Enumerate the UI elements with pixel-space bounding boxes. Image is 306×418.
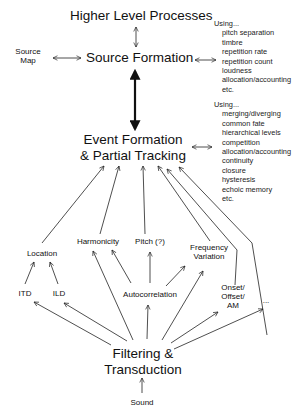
node-source-map: Source Map bbox=[12, 47, 44, 65]
node-filtering-transduction: Filtering & Transduction bbox=[98, 346, 188, 377]
arrow-filter-freq bbox=[162, 271, 203, 340]
filtering-line1: Filtering & bbox=[98, 346, 188, 362]
source-cue-item: allocation/accounting bbox=[222, 75, 291, 84]
node-location: Location bbox=[20, 249, 64, 258]
event-cue-item: closure bbox=[222, 166, 291, 175]
node-pitch: Pitch (?) bbox=[130, 237, 170, 246]
event-cue-item: hierarchical levels bbox=[222, 128, 291, 137]
source-cue-item: timbre bbox=[222, 38, 291, 47]
node-higher-level-processes: Higher Level Processes bbox=[70, 8, 202, 24]
arrow-filter-onset bbox=[171, 312, 218, 343]
arrow-autocorr-harmonicity bbox=[112, 250, 131, 283]
source-cue-item: pitch separation bbox=[222, 28, 291, 37]
arrow-filter-ild bbox=[64, 303, 127, 341]
node-autocorrelation: Autocorrelation bbox=[117, 290, 183, 299]
node-itd: ITD bbox=[14, 289, 36, 298]
arrow-location-event bbox=[42, 166, 104, 243]
onset-line3: AM bbox=[213, 301, 253, 310]
source-cue-item: loudness bbox=[222, 66, 291, 75]
node-ellipsis: ... bbox=[258, 296, 274, 305]
auditory-scene-analysis-diagram: Higher Level Processes Source Formation … bbox=[0, 0, 306, 418]
arrow-autocorr-freq bbox=[166, 266, 185, 286]
source-map-line2: Map bbox=[12, 56, 44, 65]
arrow-harmonicity-event bbox=[100, 166, 119, 234]
arrow-filter-ellipsis bbox=[174, 309, 263, 349]
node-event-formation: Event Formation & Partial Tracking bbox=[72, 132, 194, 163]
event-formation-line2: & Partial Tracking bbox=[72, 148, 194, 164]
onset-line2: Offset/ bbox=[213, 292, 253, 301]
event-cue-item: etc. bbox=[222, 194, 291, 203]
node-source-formation: Source Formation bbox=[86, 50, 192, 66]
event-cue-item: competition bbox=[222, 138, 291, 147]
source-cues-heading: Using... bbox=[214, 19, 291, 28]
arrow-freq-event bbox=[158, 166, 210, 241]
event-cue-item: continuity bbox=[222, 156, 291, 165]
event-cue-item: echoic memory bbox=[222, 185, 291, 194]
source-cue-item: repetition rate bbox=[222, 47, 291, 56]
source-cue-item: etc. bbox=[222, 85, 291, 94]
event-cue-item: merging/diverging bbox=[222, 109, 291, 118]
node-sound: Sound bbox=[124, 398, 160, 407]
frequency-variation-line2: Variation bbox=[183, 252, 235, 261]
node-onset-offset-am: Onset/ Offset/ AM bbox=[213, 283, 253, 311]
arrow-ild-location bbox=[50, 262, 58, 284]
arrow-pitch-event bbox=[143, 166, 145, 234]
event-cue-item: hysteresis bbox=[222, 175, 291, 184]
source-cue-item: repetition count bbox=[222, 57, 291, 66]
event-formation-line1: Event Formation bbox=[72, 132, 194, 148]
node-harmonicity: Harmonicity bbox=[70, 237, 126, 246]
filtering-line2: Transduction bbox=[98, 362, 188, 378]
event-cues-heading: Using... bbox=[214, 100, 291, 109]
event-cues-list: Using... merging/diverging common fate h… bbox=[214, 100, 291, 203]
source-cues-list: Using... pitch separation timbre repetit… bbox=[214, 19, 291, 94]
frequency-variation-line1: Frequency bbox=[183, 243, 235, 252]
event-cue-item: allocation/accounting bbox=[222, 147, 291, 156]
arrow-filter-autocorr bbox=[147, 305, 148, 339]
node-frequency-variation: Frequency Variation bbox=[183, 243, 235, 261]
onset-line1: Onset/ bbox=[213, 283, 253, 292]
source-map-line1: Source bbox=[12, 47, 44, 56]
event-cue-item: common fate bbox=[222, 119, 291, 128]
arrow-itd-location bbox=[25, 262, 34, 284]
node-ild: ILD bbox=[48, 289, 70, 298]
